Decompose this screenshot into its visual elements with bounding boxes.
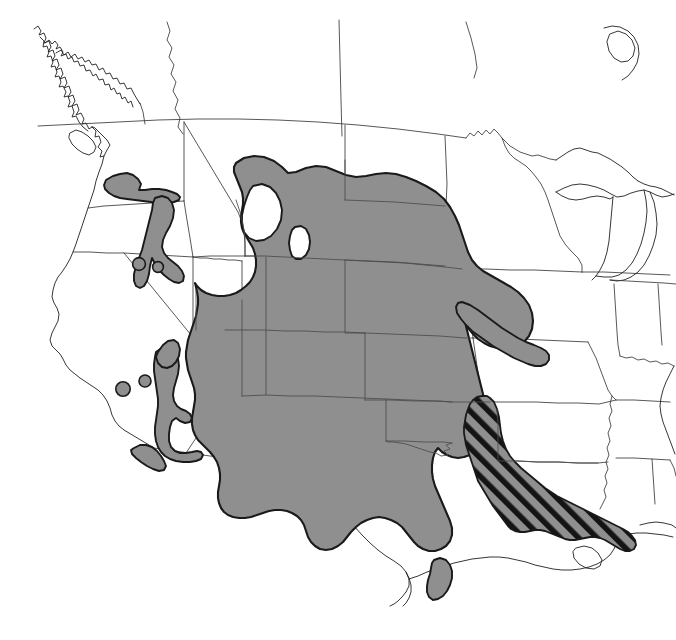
range-distribution-map — [0, 0, 676, 640]
black-hills-enclave — [289, 226, 310, 259]
map-canvas — [0, 0, 676, 640]
patch-dot-idaho-west — [133, 258, 146, 271]
patch-dot-idaho-east — [153, 262, 164, 273]
patch-dot-nevada-south — [116, 382, 130, 396]
patch-dot-nevada-east — [139, 375, 151, 387]
